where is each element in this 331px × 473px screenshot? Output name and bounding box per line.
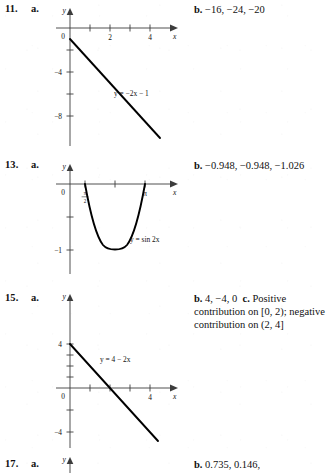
problem-number-13: 13. [5, 159, 18, 170]
figure-11: 0 2 4 −4 −8 x y y = −2x − 1 [52, 2, 182, 150]
graph-15-svg: 0 4 4 −4 x y y = 4 − 2x [52, 288, 182, 456]
answer-11-b-marker: b. [194, 4, 202, 15]
x-axis-name: x [172, 392, 177, 401]
origin-label: 0 [61, 32, 65, 41]
x-axis-arrow [170, 25, 178, 32]
problem-11-part-a-label: a. [31, 3, 39, 14]
answer-15-b-marker: b. [194, 293, 202, 304]
answer-11: b. −16, −24, −20 [194, 3, 330, 16]
problem-number-15: 15. [5, 292, 18, 303]
x-axis-arrow [170, 385, 178, 392]
graph-17-svg: y [52, 452, 182, 473]
y-tick-label-minus1: −1 [54, 246, 62, 255]
x-axis-name: x [172, 188, 177, 197]
y-tick-label-minus4: −4 [54, 68, 62, 77]
x-tick-label-4: 4 [148, 33, 152, 42]
answer-17: b. 0.735, 0.146, [194, 458, 330, 471]
equation-label-13: y = sin 2x [130, 235, 160, 244]
problem-number-11: 11. [5, 3, 18, 14]
y-axis-arrow [67, 164, 74, 171]
y-axis-name: y [62, 162, 67, 171]
x-tick-label-2: 2 [108, 33, 112, 42]
figure-13: 0 π 2 π −1 x y y = sin 2x [52, 156, 182, 278]
graph-11-svg: 0 2 4 −4 −8 x y y = −2x − 1 [52, 2, 182, 150]
origin-label: 0 [61, 392, 65, 401]
y-axis-arrow [67, 294, 74, 301]
y-axis-arrow [67, 8, 74, 15]
problem-13-part-a-label: a. [31, 159, 39, 170]
answer-11-b-text: −16, −24, −20 [205, 4, 265, 15]
x-axis-arrow [170, 181, 178, 188]
y-axis-name: y [62, 6, 67, 15]
answer-13-b-marker: b. [194, 160, 202, 171]
figure-17: y [52, 452, 182, 473]
origin-label: 0 [61, 188, 65, 197]
y-tick-label-minus8: −8 [54, 112, 62, 121]
answer-17-b-marker: b. [194, 459, 202, 470]
problem-number-17: 17. [5, 458, 18, 469]
answer-key-page: 11. a. 0 2 [0, 0, 331, 473]
y-tick-label-minus4: −4 [54, 428, 62, 437]
x-axis-name: x [172, 32, 177, 41]
problem-17-part-a-label: a. [31, 458, 39, 469]
answer-13: b. −0.948, −0.948, −1.026 [194, 159, 330, 172]
answer-15-c-marker: c. [243, 293, 250, 304]
y-axis-arrow [67, 457, 74, 464]
equation-label-11: y = −2x − 1 [114, 89, 149, 98]
y-axis-name: y [62, 455, 67, 464]
problem-15-part-a-label: a. [31, 292, 39, 303]
figure-15: 0 4 4 −4 x y y = 4 − 2x [52, 288, 182, 456]
y-axis-name: y [62, 292, 67, 301]
equation-label-15: y = 4 − 2x [100, 355, 131, 364]
fraction-denominator: 2 [84, 198, 87, 204]
answer-15-b-text: 4, −4, 0 [205, 293, 237, 304]
x-tick-label-4: 4 [148, 393, 152, 402]
y-tick-label-4: 4 [58, 340, 62, 349]
answer-17-b-text: 0.735, 0.146, [205, 459, 260, 470]
answer-13-b-text: −0.948, −0.948, −1.026 [205, 160, 304, 171]
answer-15: b. 4, −4, 0 c. Positive contribution on … [194, 292, 330, 332]
graph-13-svg: 0 π 2 π −1 x y y = sin 2x [52, 156, 182, 278]
